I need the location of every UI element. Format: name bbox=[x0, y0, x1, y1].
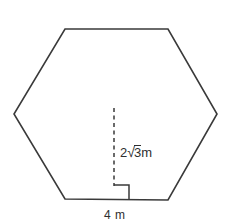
side-length-label: 4 m bbox=[104, 209, 126, 220]
hexagon-outline bbox=[14, 29, 217, 200]
radicand-value: 3 bbox=[134, 145, 141, 159]
radical-expression: √3 bbox=[127, 145, 141, 159]
apothem-unit: m bbox=[141, 145, 152, 160]
hexagon-diagram bbox=[0, 0, 229, 220]
apothem-length-label: 2√3m bbox=[120, 145, 152, 159]
geometry-figure-canvas: 2√3m 4 m bbox=[0, 0, 229, 220]
apothem-coefficient: 2 bbox=[120, 145, 127, 160]
